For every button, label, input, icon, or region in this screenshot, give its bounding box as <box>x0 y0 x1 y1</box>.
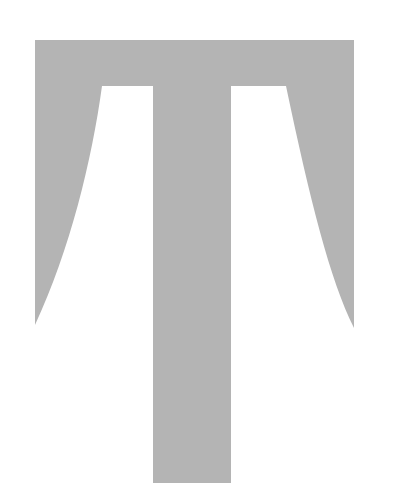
glyph-canvas: T <box>0 0 404 483</box>
letter-t-icon <box>0 0 404 483</box>
letter-t-shape <box>35 40 354 483</box>
